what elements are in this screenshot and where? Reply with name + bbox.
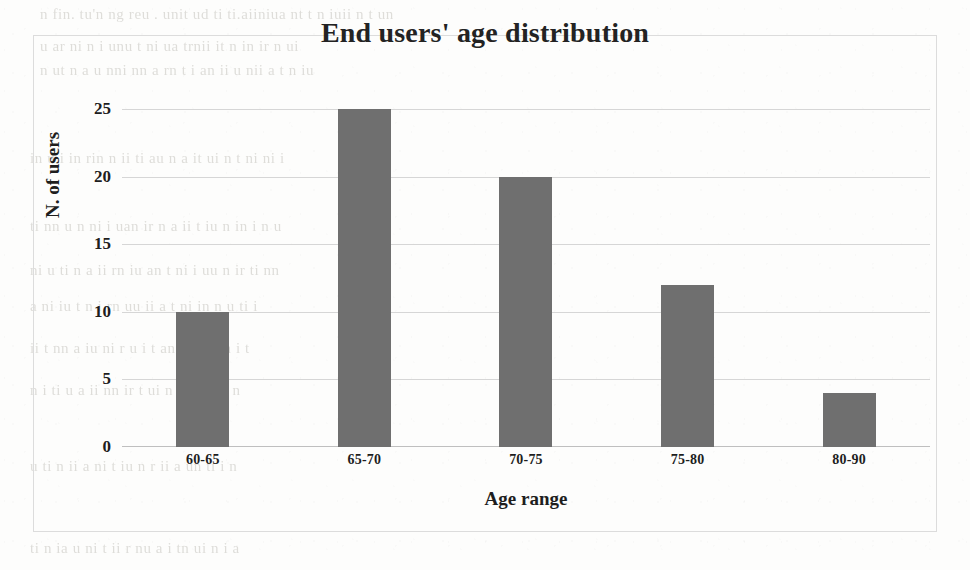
- plot-area: [122, 109, 930, 447]
- y-tick-label: 0: [103, 437, 112, 457]
- y-axis-title: N. of users: [42, 132, 64, 218]
- bar-slot: [445, 109, 607, 447]
- bar[interactable]: [499, 177, 552, 447]
- y-tick-label: 15: [94, 234, 111, 254]
- x-tick-label: 70-75: [445, 452, 607, 468]
- bar-slot: [122, 109, 284, 447]
- x-tick-label: 60-65: [122, 452, 284, 468]
- bar-slot: [284, 109, 446, 447]
- y-tick-label: 5: [103, 369, 112, 389]
- y-axis-ticks: 0 5 10 15 20 25: [63, 109, 111, 447]
- chart-title: End users' age distribution: [0, 17, 970, 49]
- x-axis-ticks: 60-65 65-70 70-75 75-80 80-90: [122, 452, 930, 468]
- bar-series: [122, 109, 930, 447]
- x-axis-title: Age range: [122, 488, 930, 510]
- y-tick-label: 20: [94, 167, 111, 187]
- ghost-line: ti n ia u ni t ii r nu a i tn ui n i a: [30, 540, 240, 557]
- bar-slot: [607, 109, 769, 447]
- x-tick-label: 75-80: [607, 452, 769, 468]
- y-tick-label: 10: [94, 302, 111, 322]
- bar[interactable]: [661, 285, 714, 447]
- bar-slot: [768, 109, 930, 447]
- bar[interactable]: [823, 393, 876, 447]
- y-tick-label: 25: [94, 99, 111, 119]
- figure-page: n fin. tu'n ng reu . unit ud ti ti.aiini…: [0, 0, 970, 570]
- bar[interactable]: [176, 312, 229, 447]
- x-tick-label: 65-70: [284, 452, 446, 468]
- bar[interactable]: [338, 109, 391, 447]
- x-tick-label: 80-90: [768, 452, 930, 468]
